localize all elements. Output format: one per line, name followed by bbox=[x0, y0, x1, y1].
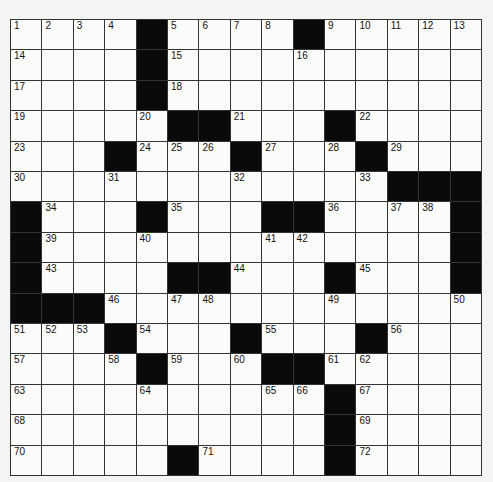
crossword-cell[interactable]: 29 bbox=[388, 142, 418, 171]
crossword-cell[interactable] bbox=[74, 233, 104, 262]
crossword-cell[interactable] bbox=[74, 385, 104, 414]
crossword-cell[interactable] bbox=[451, 50, 481, 79]
crossword-cell[interactable] bbox=[419, 294, 449, 323]
crossword-cell[interactable] bbox=[137, 263, 167, 292]
crossword-cell[interactable]: 45 bbox=[356, 263, 386, 292]
crossword-cell[interactable]: 28 bbox=[325, 142, 355, 171]
crossword-cell[interactable] bbox=[419, 324, 449, 353]
crossword-cell[interactable]: 30 bbox=[11, 172, 41, 201]
crossword-cell[interactable]: 4 bbox=[105, 20, 135, 49]
crossword-cell[interactable] bbox=[105, 233, 135, 262]
crossword-cell[interactable]: 31 bbox=[105, 172, 135, 201]
crossword-cell[interactable] bbox=[231, 50, 261, 79]
crossword-cell[interactable] bbox=[294, 142, 324, 171]
crossword-cell[interactable]: 26 bbox=[199, 142, 229, 171]
crossword-cell[interactable] bbox=[199, 81, 229, 110]
crossword-cell[interactable] bbox=[388, 354, 418, 383]
crossword-cell[interactable] bbox=[419, 354, 449, 383]
crossword-cell[interactable] bbox=[74, 50, 104, 79]
crossword-cell[interactable] bbox=[419, 385, 449, 414]
crossword-cell[interactable] bbox=[199, 50, 229, 79]
crossword-cell[interactable]: 59 bbox=[168, 354, 198, 383]
crossword-cell[interactable] bbox=[137, 172, 167, 201]
crossword-cell[interactable] bbox=[262, 294, 292, 323]
crossword-cell[interactable] bbox=[356, 202, 386, 231]
crossword-cell[interactable] bbox=[325, 233, 355, 262]
crossword-cell[interactable] bbox=[262, 446, 292, 475]
crossword-cell[interactable]: 56 bbox=[388, 324, 418, 353]
crossword-cell[interactable]: 66 bbox=[294, 385, 324, 414]
crossword-cell[interactable] bbox=[419, 142, 449, 171]
crossword-cell[interactable]: 9 bbox=[325, 20, 355, 49]
crossword-cell[interactable] bbox=[231, 385, 261, 414]
crossword-cell[interactable] bbox=[294, 294, 324, 323]
crossword-cell[interactable]: 24 bbox=[137, 142, 167, 171]
crossword-cell[interactable] bbox=[262, 263, 292, 292]
crossword-cell[interactable] bbox=[262, 172, 292, 201]
crossword-cell[interactable]: 70 bbox=[11, 446, 41, 475]
crossword-cell[interactable]: 58 bbox=[105, 354, 135, 383]
crossword-cell[interactable]: 22 bbox=[356, 111, 386, 140]
crossword-cell[interactable]: 19 bbox=[11, 111, 41, 140]
crossword-cell[interactable]: 47 bbox=[168, 294, 198, 323]
crossword-cell[interactable] bbox=[451, 142, 481, 171]
crossword-cell[interactable] bbox=[356, 81, 386, 110]
crossword-cell[interactable]: 27 bbox=[262, 142, 292, 171]
crossword-cell[interactable] bbox=[199, 324, 229, 353]
crossword-cell[interactable]: 50 bbox=[451, 294, 481, 323]
crossword-cell[interactable] bbox=[42, 354, 72, 383]
crossword-cell[interactable]: 72 bbox=[356, 446, 386, 475]
crossword-cell[interactable]: 15 bbox=[168, 50, 198, 79]
crossword-cell[interactable] bbox=[294, 172, 324, 201]
crossword-cell[interactable] bbox=[231, 81, 261, 110]
crossword-cell[interactable] bbox=[451, 81, 481, 110]
crossword-cell[interactable] bbox=[262, 50, 292, 79]
crossword-cell[interactable]: 54 bbox=[137, 324, 167, 353]
crossword-cell[interactable] bbox=[42, 50, 72, 79]
crossword-cell[interactable] bbox=[388, 111, 418, 140]
crossword-cell[interactable] bbox=[231, 415, 261, 444]
crossword-cell[interactable]: 37 bbox=[388, 202, 418, 231]
crossword-cell[interactable] bbox=[451, 385, 481, 414]
crossword-cell[interactable] bbox=[74, 172, 104, 201]
crossword-cell[interactable] bbox=[388, 50, 418, 79]
crossword-cell[interactable]: 64 bbox=[137, 385, 167, 414]
crossword-cell[interactable]: 13 bbox=[451, 20, 481, 49]
crossword-cell[interactable] bbox=[74, 111, 104, 140]
crossword-cell[interactable] bbox=[74, 81, 104, 110]
crossword-cell[interactable] bbox=[74, 446, 104, 475]
crossword-cell[interactable] bbox=[74, 354, 104, 383]
crossword-cell[interactable]: 62 bbox=[356, 354, 386, 383]
crossword-cell[interactable]: 46 bbox=[105, 294, 135, 323]
crossword-cell[interactable]: 5 bbox=[168, 20, 198, 49]
crossword-cell[interactable] bbox=[419, 446, 449, 475]
crossword-cell[interactable]: 49 bbox=[325, 294, 355, 323]
crossword-cell[interactable] bbox=[294, 415, 324, 444]
crossword-cell[interactable] bbox=[105, 415, 135, 444]
crossword-cell[interactable] bbox=[105, 263, 135, 292]
crossword-cell[interactable]: 21 bbox=[231, 111, 261, 140]
crossword-cell[interactable] bbox=[388, 233, 418, 262]
crossword-cell[interactable]: 41 bbox=[262, 233, 292, 262]
crossword-cell[interactable] bbox=[356, 294, 386, 323]
crossword-cell[interactable]: 55 bbox=[262, 324, 292, 353]
crossword-cell[interactable] bbox=[451, 354, 481, 383]
crossword-cell[interactable]: 69 bbox=[356, 415, 386, 444]
crossword-cell[interactable] bbox=[325, 81, 355, 110]
crossword-cell[interactable] bbox=[451, 415, 481, 444]
crossword-cell[interactable]: 61 bbox=[325, 354, 355, 383]
crossword-cell[interactable]: 25 bbox=[168, 142, 198, 171]
crossword-cell[interactable] bbox=[294, 81, 324, 110]
crossword-cell[interactable]: 39 bbox=[42, 233, 72, 262]
crossword-cell[interactable] bbox=[231, 202, 261, 231]
crossword-cell[interactable]: 17 bbox=[11, 81, 41, 110]
crossword-cell[interactable] bbox=[294, 111, 324, 140]
crossword-cell[interactable]: 10 bbox=[356, 20, 386, 49]
crossword-cell[interactable] bbox=[42, 172, 72, 201]
crossword-cell[interactable]: 51 bbox=[11, 324, 41, 353]
crossword-cell[interactable] bbox=[199, 415, 229, 444]
crossword-cell[interactable] bbox=[262, 111, 292, 140]
crossword-cell[interactable] bbox=[199, 354, 229, 383]
crossword-cell[interactable]: 34 bbox=[42, 202, 72, 231]
crossword-cell[interactable]: 1 bbox=[11, 20, 41, 49]
